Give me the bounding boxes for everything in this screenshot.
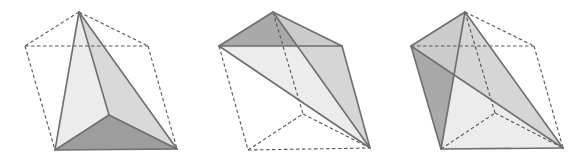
dashed-edge (25, 46, 55, 150)
geometry-diagram (0, 0, 581, 161)
dashed-edge (248, 114, 303, 150)
figure-2 (219, 12, 370, 150)
shaded-faces (55, 12, 177, 150)
dashed-edge (248, 148, 370, 150)
dashed-edge (25, 12, 79, 46)
solid-edge (441, 148, 563, 149)
figure-3 (411, 12, 563, 149)
solid-edge (55, 149, 177, 150)
figure-1 (25, 12, 177, 150)
